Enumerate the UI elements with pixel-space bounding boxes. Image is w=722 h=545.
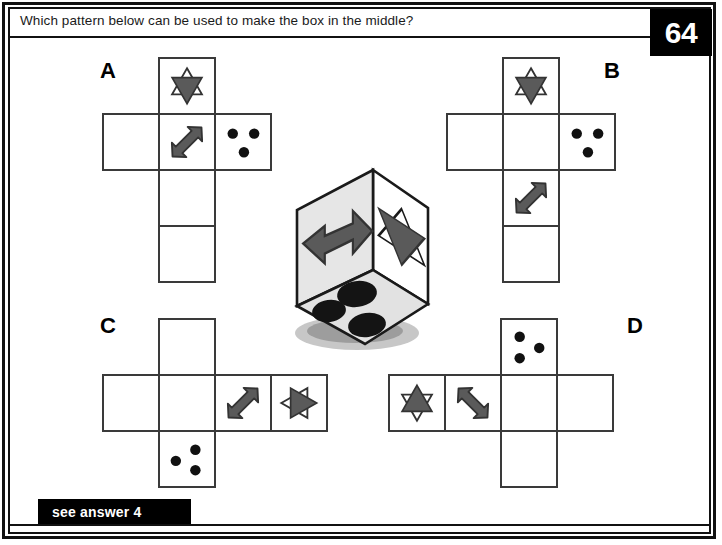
net-a-cell-three-dots-a[interactable] bbox=[214, 113, 272, 171]
center-cube-illustration bbox=[265, 148, 465, 358]
net-a-cell-empty[interactable] bbox=[158, 169, 216, 227]
net-a-cell-star-of-david-up[interactable] bbox=[158, 57, 216, 115]
three-dots-icon bbox=[502, 320, 556, 374]
net-c-cell-arrow-sw-ne[interactable] bbox=[214, 374, 272, 432]
net-d-cell-empty[interactable] bbox=[500, 374, 558, 432]
net-b-cell-three-dots-a[interactable] bbox=[558, 113, 616, 171]
arrow-sw-ne-icon bbox=[160, 115, 214, 169]
net-c-cell-empty[interactable] bbox=[158, 318, 216, 376]
net-label-b: B bbox=[604, 58, 620, 84]
net-b-cell-empty[interactable] bbox=[502, 225, 560, 283]
star-of-david-down-icon bbox=[390, 376, 444, 430]
star-of-david-right-icon bbox=[272, 376, 326, 430]
arrow-sw-ne-icon bbox=[504, 171, 558, 225]
net-label-c: C bbox=[100, 313, 116, 339]
page-number-badge: 64 bbox=[650, 9, 712, 56]
three-dots-icon bbox=[560, 115, 614, 169]
net-c-cell-empty[interactable] bbox=[102, 374, 160, 432]
net-b-cell-empty[interactable] bbox=[502, 113, 560, 171]
net-c-cell-three-dots-c[interactable] bbox=[158, 430, 216, 488]
cube-svg bbox=[265, 148, 465, 358]
star-of-david-up-icon bbox=[504, 59, 558, 113]
net-c-cell-star-of-david-right[interactable] bbox=[270, 374, 328, 432]
net-label-a: A bbox=[100, 58, 116, 84]
arrow-nw-se-icon bbox=[446, 376, 500, 430]
three-dots-icon bbox=[216, 115, 270, 169]
star-of-david-up-icon bbox=[160, 59, 214, 113]
net-d-cell-empty[interactable] bbox=[500, 430, 558, 488]
net-a-cell-empty[interactable] bbox=[102, 113, 160, 171]
answer-banner[interactable]: see answer 4 bbox=[38, 499, 191, 524]
net-a-cell-empty[interactable] bbox=[158, 225, 216, 283]
net-a-cell-arrow-sw-ne[interactable] bbox=[158, 113, 216, 171]
net-label-d: D bbox=[627, 313, 643, 339]
net-d-cell-arrow-nw-se[interactable] bbox=[444, 374, 502, 432]
page-title: Which pattern below can be used to make … bbox=[20, 13, 413, 28]
net-b-cell-arrow-sw-ne[interactable] bbox=[502, 169, 560, 227]
net-d-cell-three-dots-d[interactable] bbox=[500, 318, 558, 376]
arrow-sw-ne-icon bbox=[216, 376, 270, 430]
net-d-cell-star-of-david-down[interactable] bbox=[388, 374, 446, 432]
net-b-cell-star-of-david-up[interactable] bbox=[502, 57, 560, 115]
three-dots-icon bbox=[160, 432, 214, 486]
footer-divider bbox=[10, 524, 711, 526]
net-d-cell-empty[interactable] bbox=[556, 374, 614, 432]
header-divider bbox=[10, 36, 711, 38]
net-c-cell-empty[interactable] bbox=[158, 374, 216, 432]
puzzle-page: Which pattern below can be used to make … bbox=[0, 0, 722, 545]
